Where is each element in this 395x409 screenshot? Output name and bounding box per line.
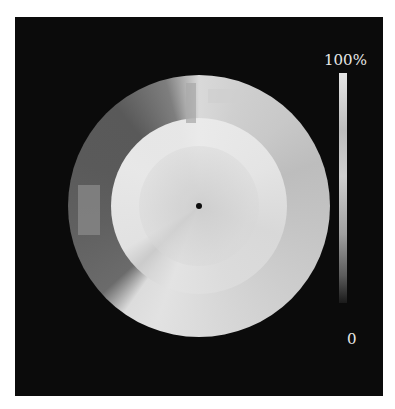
left-patch	[78, 185, 100, 235]
top-bright-patch	[208, 89, 240, 103]
colorbar-max-label: 100%	[324, 51, 367, 69]
polar-heatmap	[68, 75, 330, 337]
colorbar	[339, 73, 347, 303]
top-patch	[186, 83, 196, 123]
center-marker	[196, 203, 202, 209]
colorbar-min-label: 0	[347, 330, 357, 348]
